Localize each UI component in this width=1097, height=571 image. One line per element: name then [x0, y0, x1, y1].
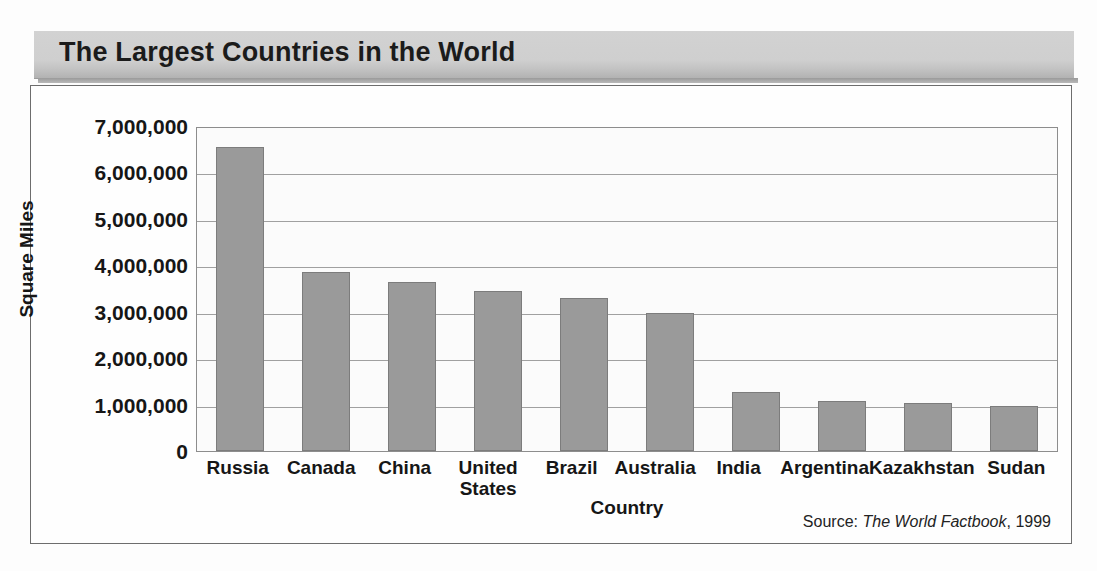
- y-axis-tick-labels: 7,000,0006,000,0005,000,0004,000,0003,00…: [36, 127, 188, 452]
- bar-india[interactable]: [732, 392, 779, 451]
- y-axis-tick-label: 7,000,000: [38, 115, 188, 139]
- x-axis-tick-label: Brazil: [530, 457, 613, 499]
- scanned-page: The Largest Countries in the World Squar…: [0, 0, 1097, 571]
- bar-slot: [455, 128, 541, 451]
- x-axis-tick-line: China: [363, 457, 446, 478]
- x-axis-tick-line: Russia: [196, 457, 279, 478]
- x-axis-tick-line: Kazakhstan: [869, 457, 975, 478]
- bar-kazakhstan[interactable]: [904, 403, 951, 451]
- bar-argentina[interactable]: [818, 401, 865, 451]
- source-citation: Source: The World Factbook, 1999: [803, 513, 1051, 531]
- bar-series: [197, 128, 1057, 451]
- source-work-title: The World Factbook: [862, 513, 1006, 530]
- bar-sudan[interactable]: [990, 406, 1037, 451]
- title-banner-shadow: [38, 78, 1078, 83]
- x-axis-tick-line: Argentina: [780, 457, 869, 478]
- bar-slot: [627, 128, 713, 451]
- x-axis-tick-label: Sudan: [975, 457, 1058, 499]
- source-year: , 1999: [1007, 513, 1051, 530]
- x-axis-tick-line: States: [446, 478, 529, 499]
- bar-slot: [799, 128, 885, 451]
- x-axis-tick-line: India: [697, 457, 780, 478]
- x-axis-tick-label: India: [697, 457, 780, 499]
- x-axis-tick-label: Canada: [279, 457, 362, 499]
- source-prefix: Source:: [803, 513, 858, 530]
- page-title: The Largest Countries in the World: [59, 37, 515, 68]
- y-axis-tick-label: 6,000,000: [38, 161, 188, 185]
- bar-slot: [713, 128, 799, 451]
- x-axis-tick-label: Kazakhstan: [869, 457, 975, 499]
- bar-china[interactable]: [388, 282, 435, 451]
- x-axis-tick-label: Russia: [196, 457, 279, 499]
- bar-canada[interactable]: [302, 272, 349, 451]
- bar-slot: [283, 128, 369, 451]
- bar-slot: [971, 128, 1057, 451]
- x-axis-tick-label: Australia: [613, 457, 696, 499]
- y-axis-tick-label: 1,000,000: [38, 394, 188, 418]
- bar-slot: [541, 128, 627, 451]
- plot-area: [196, 127, 1058, 452]
- y-axis-tick-label: 0: [38, 440, 188, 464]
- bar-slot: [369, 128, 455, 451]
- bar-slot: [885, 128, 971, 451]
- bar-slot: [197, 128, 283, 451]
- y-axis-tick-label: 3,000,000: [38, 301, 188, 325]
- x-axis-tick-label: UnitedStates: [446, 457, 529, 499]
- y-axis-tick-label: 2,000,000: [38, 347, 188, 371]
- x-axis-tick-label: China: [363, 457, 446, 499]
- x-axis-tick-line: Sudan: [975, 457, 1058, 478]
- x-axis-tick-line: Brazil: [530, 457, 613, 478]
- title-banner: The Largest Countries in the World: [34, 31, 1074, 78]
- bar-brazil[interactable]: [560, 298, 607, 451]
- bar-australia[interactable]: [646, 313, 693, 451]
- bar-russia[interactable]: [216, 147, 263, 451]
- x-axis-tick-line: Australia: [613, 457, 696, 478]
- x-axis-tick-line: Canada: [279, 457, 362, 478]
- y-axis-tick-label: 5,000,000: [38, 208, 188, 232]
- y-axis-tick-label: 4,000,000: [38, 254, 188, 278]
- x-axis-tick-line: United: [446, 457, 529, 478]
- y-axis-title: Square Miles: [16, 200, 38, 317]
- x-axis-tick-label: Argentina: [780, 457, 869, 499]
- bar-united-states[interactable]: [474, 291, 521, 451]
- x-axis-tick-labels: RussiaCanadaChinaUnitedStatesBrazilAustr…: [196, 457, 1058, 499]
